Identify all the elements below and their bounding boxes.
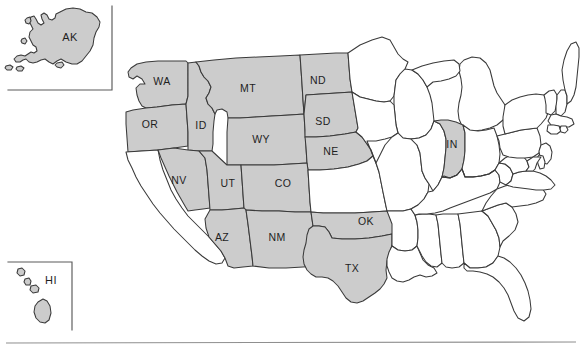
- state-shape-wy[interactable]: [227, 114, 307, 165]
- state-arkansas[interactable]: [387, 209, 418, 251]
- state-connecticut[interactable]: [547, 125, 561, 134]
- state-south-dakota[interactable]: SD: [304, 92, 358, 137]
- state-michigan-lower[interactable]: [458, 57, 506, 131]
- state-new-york[interactable]: [503, 94, 549, 134]
- state-colorado[interactable]: CO: [241, 163, 311, 212]
- state-shape-ri[interactable]: [560, 126, 568, 133]
- state-shape-vt[interactable]: [544, 90, 557, 115]
- state-shape-ar[interactable]: [387, 209, 418, 251]
- state-shape-ak-islet-1: [25, 17, 31, 24]
- state-vermont[interactable]: [544, 90, 557, 115]
- state-shape-mt[interactable]: [196, 55, 304, 118]
- state-ohio[interactable]: [462, 125, 500, 177]
- state-washington[interactable]: WA: [128, 61, 188, 108]
- state-shape-hi-bigisland[interactable]: [34, 299, 51, 323]
- state-pennsylvania[interactable]: [497, 128, 541, 158]
- state-montana[interactable]: MT: [196, 55, 304, 118]
- state-oregon[interactable]: OR: [126, 104, 188, 152]
- state-shape-ak-aleutian: [55, 62, 64, 68]
- state-shape-co[interactable]: [241, 163, 311, 212]
- state-rhode-island[interactable]: [560, 126, 568, 133]
- state-shape-ak-islet-4: [16, 66, 24, 71]
- state-shape-ak-islet-2: [21, 38, 27, 44]
- us-choropleth-map-figure: AK HI WA OR ID MT: [0, 0, 582, 349]
- state-shape-oh[interactable]: [462, 125, 500, 177]
- state-shape-ak-islet-3: [5, 65, 13, 70]
- state-shape-hi-kauai[interactable]: [17, 268, 25, 276]
- state-shape-hi-oahu[interactable]: [24, 278, 31, 285]
- state-shape-sd[interactable]: [304, 92, 358, 137]
- region-northeast: [497, 42, 579, 171]
- state-shape-ak[interactable]: [14, 8, 100, 64]
- state-label-hi: HI: [45, 274, 57, 286]
- state-hawaii[interactable]: HI: [17, 268, 57, 323]
- state-shape-ct[interactable]: [547, 125, 561, 134]
- state-shape-hi-maui[interactable]: [30, 285, 39, 293]
- state-shape-mi[interactable]: [458, 57, 506, 131]
- state-new-hampshire[interactable]: [556, 90, 567, 116]
- state-shape-pa[interactable]: [497, 128, 541, 158]
- state-shape-nh[interactable]: [556, 90, 567, 116]
- us-map-svg: AK HI WA OR ID MT: [0, 0, 582, 349]
- state-shape-ny[interactable]: [503, 94, 549, 134]
- bottom-baseline-rule: [6, 342, 576, 343]
- state-shape-or[interactable]: [126, 104, 188, 152]
- state-alaska[interactable]: AK: [5, 8, 100, 71]
- state-shape-wa[interactable]: [128, 61, 188, 108]
- state-wyoming[interactable]: WY: [227, 114, 307, 165]
